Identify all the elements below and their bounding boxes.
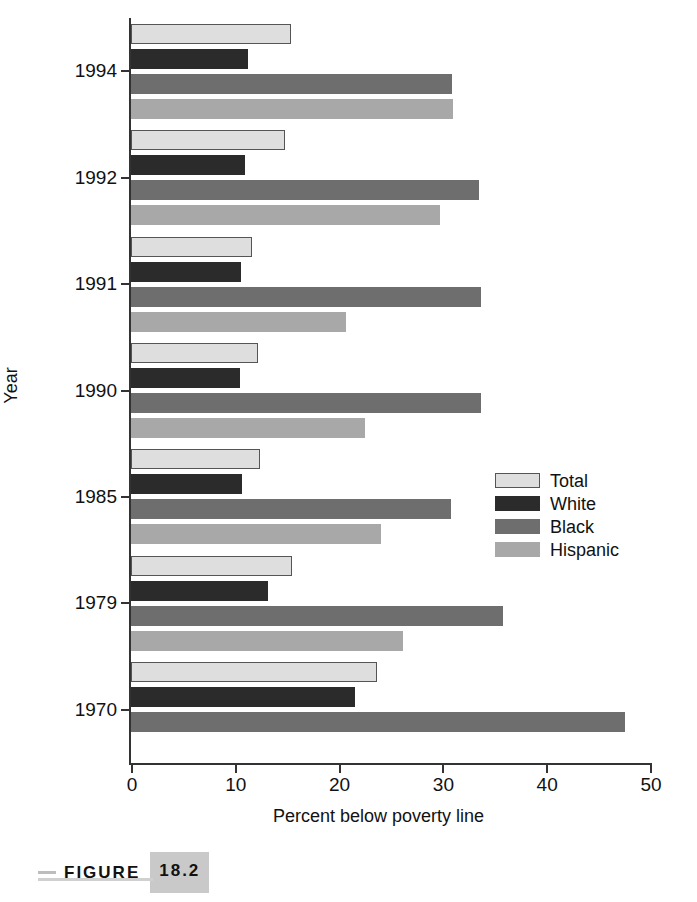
bar-white-1970 xyxy=(131,687,355,707)
bar-total-1991 xyxy=(131,237,252,257)
bar-hispanic-1990 xyxy=(131,418,365,438)
year-axis-tick xyxy=(121,709,129,711)
legend-label-black: Black xyxy=(550,518,594,536)
bar-total-1970 xyxy=(131,662,377,682)
bar-total-1979 xyxy=(131,556,292,576)
year-axis-label: 1970 xyxy=(75,699,117,721)
legend-swatch-total xyxy=(495,473,540,488)
legend-item-white: White xyxy=(495,493,619,514)
year-group: 1992 xyxy=(131,130,650,225)
bar-hispanic-1994 xyxy=(131,99,453,119)
bar-total-1994 xyxy=(131,24,291,44)
x-axis-tick-label: 40 xyxy=(537,774,558,796)
legend-label-total: Total xyxy=(550,472,588,490)
year-group: 1994 xyxy=(131,24,650,119)
x-axis-tick-label: 0 xyxy=(127,774,138,796)
caption-underline xyxy=(38,878,153,881)
figure-caption: FIGURE 18.2 xyxy=(38,852,209,893)
legend-item-black: Black xyxy=(495,516,619,537)
legend-label-white: White xyxy=(550,495,596,513)
bar-white-1979 xyxy=(131,581,268,601)
y-axis-title: Year xyxy=(1,367,22,403)
year-group: 1991 xyxy=(131,237,650,332)
bar-hispanic-1991 xyxy=(131,312,346,332)
year-axis-label: 1994 xyxy=(75,60,117,82)
year-group: 1970 xyxy=(131,662,650,757)
x-axis-tick-label: 50 xyxy=(640,774,661,796)
x-axis-tick xyxy=(131,765,133,773)
x-axis-tick-label: 10 xyxy=(225,774,246,796)
bar-total-1992 xyxy=(131,130,285,150)
x-axis-title: Percent below poverty line xyxy=(0,806,697,827)
bar-hispanic-1985 xyxy=(131,524,381,544)
bar-black-1994 xyxy=(131,74,452,94)
bar-hispanic-1992 xyxy=(131,205,440,225)
bar-white-1992 xyxy=(131,155,245,175)
legend-swatch-white xyxy=(495,496,540,511)
x-axis-tick xyxy=(235,765,237,773)
bar-black-1991 xyxy=(131,287,481,307)
year-axis-tick xyxy=(121,390,129,392)
year-axis-tick xyxy=(121,70,129,72)
x-axis-tick xyxy=(650,765,652,773)
bar-white-1994 xyxy=(131,49,248,69)
year-axis-label: 1990 xyxy=(75,380,117,402)
year-axis-label: 1991 xyxy=(75,273,117,295)
bar-black-1979 xyxy=(131,606,503,626)
legend-swatch-black xyxy=(495,519,540,534)
legend-item-hispanic: Hispanic xyxy=(495,539,619,560)
bar-hispanic-1979 xyxy=(131,631,403,651)
x-axis-tick xyxy=(442,765,444,773)
bar-total-1985 xyxy=(131,449,260,469)
year-group: 1990 xyxy=(131,343,650,438)
year-axis-label: 1985 xyxy=(75,486,117,508)
legend-item-total: Total xyxy=(495,470,619,491)
x-axis-tick-label: 20 xyxy=(329,774,350,796)
legend-label-hispanic: Hispanic xyxy=(550,541,619,559)
bar-black-1985 xyxy=(131,499,451,519)
legend-swatch-hispanic xyxy=(495,542,540,557)
x-axis-line xyxy=(129,763,652,765)
year-axis-tick xyxy=(121,496,129,498)
caption-number: 18.2 xyxy=(150,852,209,893)
bar-black-1970 xyxy=(131,712,625,732)
bar-black-1992 xyxy=(131,180,479,200)
year-axis-label: 1992 xyxy=(75,167,117,189)
x-axis-tick xyxy=(546,765,548,773)
plot-area: 1994199219911990198519791970 xyxy=(131,18,650,763)
year-group: 1979 xyxy=(131,556,650,651)
year-axis-tick xyxy=(121,602,129,604)
year-axis-tick xyxy=(121,177,129,179)
bar-white-1985 xyxy=(131,474,242,494)
bar-black-1990 xyxy=(131,393,481,413)
bar-white-1990 xyxy=(131,368,240,388)
year-axis-label: 1979 xyxy=(75,592,117,614)
x-axis-tick xyxy=(339,765,341,773)
bar-white-1991 xyxy=(131,262,241,282)
chart-legend: TotalWhiteBlackHispanic xyxy=(495,470,619,562)
year-axis-tick xyxy=(121,283,129,285)
caption-rule xyxy=(38,871,56,874)
bar-total-1990 xyxy=(131,343,258,363)
figure-root: 1994199219911990198519791970 01020304050… xyxy=(0,0,697,902)
x-axis-tick-label: 30 xyxy=(433,774,454,796)
